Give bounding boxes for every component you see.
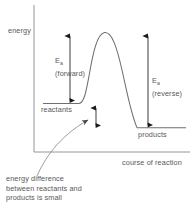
ea-reverse-subscript: a [157, 80, 160, 86]
caption-leader-line [37, 120, 88, 176]
caption-line-1: energy difference [6, 174, 136, 184]
products-label: products [138, 130, 167, 139]
ea-reverse-label: Ea (reverse) [152, 76, 192, 98]
reactants-label: reactants [41, 105, 72, 114]
reaction-curve [79, 33, 137, 128]
x-axis-label: course of reaction [122, 158, 182, 167]
energy-profile-diagram: energy Ea (forward) Ea (reverse) reactan… [0, 0, 193, 209]
caption-line-2: between reactants and [6, 184, 136, 194]
y-axis-label: energy [8, 26, 31, 35]
ea-reverse-direction: (reverse) [152, 89, 182, 98]
ea-forward-label: Ea (forward) [55, 56, 95, 78]
diagram-caption: energy difference between reactants and … [6, 174, 136, 203]
ea-forward-subscript: a [60, 60, 63, 66]
caption-line-3: products is small [6, 193, 136, 203]
ea-forward-direction: (forward) [55, 69, 85, 78]
